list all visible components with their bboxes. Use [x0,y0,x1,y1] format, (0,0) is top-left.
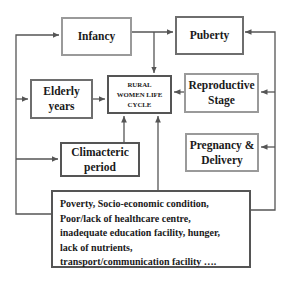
node-pregnancy-delivery-line-1: Pregnancy & [190,138,255,153]
factor-line-3: inadequate education facility, hunger, [60,226,220,241]
factor-line-1: Poverty, Socio-economic condition, [60,197,209,212]
node-infancy: Infancy [61,17,132,56]
node-pregnancy-delivery: Pregnancy & Delivery [185,133,259,172]
center-line-3: CYCLE [128,100,152,110]
center-line-2: WOMEN LIFE [117,90,163,100]
node-reproductive-stage-line-2: Stage [208,93,235,108]
factor-line-2: Poor/lack of healthcare centre, [60,212,191,227]
node-elderly-years: Elderly years [30,79,93,119]
node-rural-women-life-cycle: RURAL WOMEN LIFE CYCLE [107,75,172,114]
node-climacteric-period-line-1: Climacteric [71,145,128,160]
factor-line-4: lack of nutrients, [60,241,133,256]
node-puberty-label: Puberty [190,28,230,43]
center-line-1: RURAL [127,80,151,90]
node-pregnancy-delivery-line-2: Delivery [201,153,243,168]
node-infancy-label: Infancy [78,29,116,44]
factor-line-5: transport/communication facility …. [60,255,216,270]
node-elderly-years-line-2: years [48,99,74,114]
node-elderly-years-line-1: Elderly [43,84,79,99]
node-climacteric-period: Climacteric period [60,142,140,177]
factors-box: Poverty, Socio-economic condition, Poor/… [51,190,251,268]
node-reproductive-stage-line-1: Reproductive [188,78,254,93]
node-climacteric-period-line-2: period [84,160,116,175]
node-reproductive-stage: Reproductive Stage [184,73,259,113]
node-puberty: Puberty [175,16,244,55]
